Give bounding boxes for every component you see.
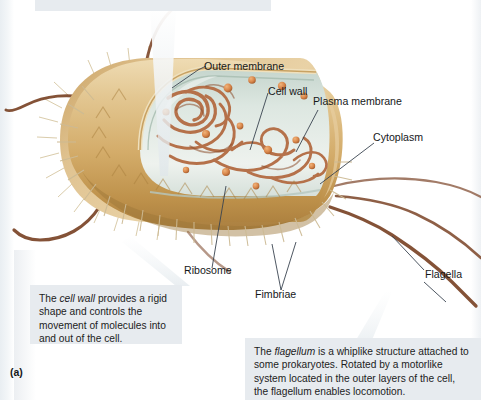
figure-part-letter: (a) bbox=[10, 366, 23, 378]
label-cytoplasm: Cytoplasm bbox=[373, 131, 423, 143]
label-flagella: Flagella bbox=[425, 268, 462, 280]
caption-flagellum-line1-b: is a whiplike structure attached bbox=[315, 346, 457, 357]
caption-cell-wall-line2: shape and controls the bbox=[39, 306, 142, 317]
label-cell-wall: Cell wall bbox=[268, 85, 307, 97]
label-plasma-membrane: Plasma membrane bbox=[313, 95, 402, 107]
caption-flagellum-line3: system located in the outer layers of th… bbox=[254, 373, 455, 384]
caption-cell-wall-emphasis: cell wall bbox=[59, 293, 95, 304]
caption-flagellum-line1-a: The bbox=[254, 346, 274, 357]
leader-fimbriae-b bbox=[281, 242, 296, 290]
caption-flagellum-emphasis: flagellum bbox=[274, 346, 315, 357]
caption-box-flagellum: The flagellum is a whiplike structure at… bbox=[245, 338, 481, 400]
caption-cell-wall-line1-b: provides a rigid bbox=[95, 293, 167, 304]
label-outer-membrane: Outer membrane bbox=[204, 60, 284, 72]
leader-flagella-b bbox=[424, 282, 446, 302]
leader-fimbriae-a bbox=[272, 244, 281, 290]
label-fimbriae: Fimbriae bbox=[255, 288, 296, 300]
caption-box-cell-wall: The cell wall provides a rigid shape and… bbox=[30, 285, 182, 344]
label-ribosome: Ribosome bbox=[184, 264, 232, 276]
caption-flagellum-line4: the flagellum enables locomotion. bbox=[254, 386, 405, 397]
caption-box-top-cutoff bbox=[35, 0, 271, 11]
figure-prokaryotic-cell: Outer membrane Cell wall Plasma membrane… bbox=[0, 0, 481, 400]
caption-cell-wall-line3: movement of molecules bbox=[39, 320, 147, 331]
caption-cell-wall-line1-a: The bbox=[39, 293, 59, 304]
